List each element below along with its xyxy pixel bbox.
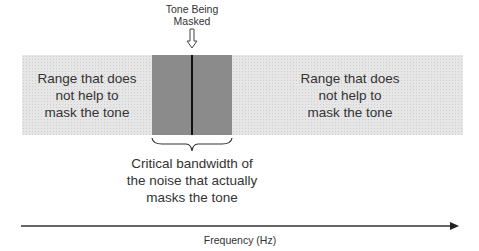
tone-line (191, 55, 193, 135)
frequency-axis (18, 220, 463, 232)
left-range-line-1: Range that does (22, 70, 152, 87)
tone-label-line-1: Tone Being (152, 3, 232, 15)
right-range-text: Range that does not help to mask the ton… (280, 70, 420, 121)
critical-line-3: masks the tone (112, 189, 272, 206)
curly-brace-icon (150, 137, 234, 155)
right-range-line-2: not help to (280, 87, 420, 104)
critical-bandwidth-text: Critical bandwidth of the noise that act… (112, 155, 272, 206)
down-arrow-outline-icon (186, 28, 198, 50)
critical-line-1: Critical bandwidth of (112, 155, 272, 172)
frequency-axis-label: Frequency (Hz) (180, 234, 300, 246)
critical-line-2: the noise that actually (112, 172, 272, 189)
left-range-line-3: mask the tone (22, 104, 152, 121)
tone-label-line-2: Masked (152, 15, 232, 27)
left-range-line-2: not help to (22, 87, 152, 104)
right-range-line-3: mask the tone (280, 104, 420, 121)
tone-being-masked-label: Tone Being Masked (152, 3, 232, 27)
left-range-text: Range that does not help to mask the ton… (22, 70, 152, 121)
right-arrowhead-icon (450, 222, 459, 230)
right-range-line-1: Range that does (280, 70, 420, 87)
